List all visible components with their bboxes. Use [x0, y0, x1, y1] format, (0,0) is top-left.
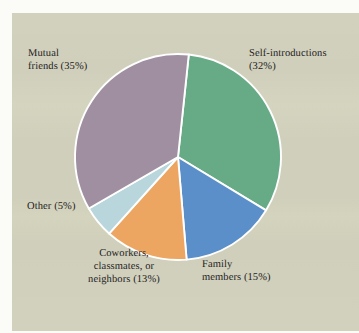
pie-slice-group — [75, 54, 281, 260]
pie-label-other: Other (5%) — [27, 200, 111, 213]
figure-page: Mutual friends (35%) Self-introductions … — [0, 0, 359, 333]
pie-label-mutual-friends: Mutual friends (35%) — [28, 47, 138, 73]
pie-label-self-introductions: Self-introductions (32%) — [249, 47, 357, 73]
pie-chart: Mutual friends (35%) Self-introductions … — [0, 0, 359, 333]
pie-label-family-members: Family members (15%) — [202, 258, 312, 284]
pie-label-coworkers-classmates-neighbors: Coworkers, classmates, or neighbors (13%… — [60, 247, 188, 286]
